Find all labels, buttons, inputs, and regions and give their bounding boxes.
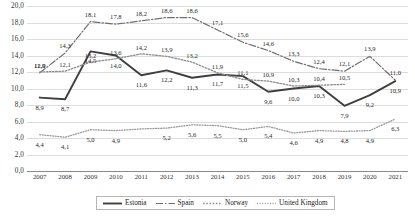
x-axis-tick-label: 2014 (211, 173, 225, 180)
data-label: 4,9 (315, 136, 323, 143)
x-axis-tick-label: 2015 (236, 173, 250, 180)
x-axis-tick-label: 2013 (185, 173, 199, 180)
data-label: 5,2 (163, 134, 171, 141)
data-label: 14,0 (110, 61, 122, 68)
x-axis-tick-label: 2018 (312, 173, 326, 180)
y-axis-tick-label: 0,0 (15, 167, 24, 175)
data-label: 18,6 (161, 6, 173, 13)
x-axis-tick-label: 2007 (33, 173, 47, 180)
data-label: 10,5 (339, 74, 351, 81)
data-label: 14,2 (136, 43, 148, 50)
legend-swatch-finedot (257, 200, 276, 207)
data-label: 11,0 (390, 69, 401, 76)
data-label: 18,2 (136, 9, 148, 16)
legend-item-united-kingdom[interactable]: United Kingdom (257, 199, 328, 207)
data-label: 10,3 (288, 76, 300, 83)
data-label: 10,4 (313, 75, 325, 82)
data-label: 18,1 (85, 10, 97, 17)
data-label: 4,8 (340, 137, 348, 144)
data-label: 17,8 (110, 13, 122, 20)
x-axis-tick-label: 2021 (389, 173, 403, 180)
legend-item-estonia[interactable]: Estonia (103, 199, 147, 207)
legend-swatch-solid (103, 200, 122, 207)
data-label: 8,7 (61, 105, 69, 112)
data-label: 8,9 (36, 103, 44, 110)
data-label: 13,2 (85, 52, 97, 59)
data-label: 14,6 (263, 39, 275, 46)
data-label: 11,5 (237, 82, 248, 89)
data-label: 5,6 (188, 130, 196, 137)
data-label: 12,1 (339, 60, 351, 67)
x-axis-tick-label: 2011 (135, 173, 148, 180)
plot-area: 8,98,714,514,011,612,211,311,711,59,610,… (27, 6, 408, 171)
data-label: 4,9 (112, 136, 120, 143)
data-label: 10,3 (313, 92, 325, 99)
series-line-spain (40, 18, 396, 81)
data-label: 12,4 (313, 57, 325, 64)
x-axis-tick-label: 2017 (287, 173, 301, 180)
y-axis-tick-label: 12,0 (11, 68, 24, 76)
data-label: 6,3 (391, 125, 399, 132)
x-axis-tick-label: 2012 (160, 173, 174, 180)
data-label: 4,4 (36, 140, 44, 147)
data-label: 12,0 (34, 62, 46, 69)
legend-label: United Kingdom (279, 199, 328, 207)
data-label: 5,0 (86, 135, 94, 142)
data-label: 13,2 (186, 52, 198, 59)
y-axis-tick-label: 18,0 (11, 19, 24, 27)
y-axis-tick-label: 10,0 (11, 85, 24, 93)
data-label: 13,9 (364, 45, 376, 52)
x-axis: 2007200820092010201120122013201420152016… (27, 173, 408, 186)
chart-legend: EstoniaSpainNorwayUnited Kingdom (96, 196, 335, 210)
data-label: 13,3 (288, 50, 300, 57)
y-axis-tick-label: 16,0 (11, 35, 24, 43)
data-label: 11,9 (212, 62, 223, 69)
data-label: 9,6 (264, 97, 272, 104)
data-label: 14,3 (59, 42, 71, 49)
data-label: 4,6 (290, 139, 298, 146)
y-axis-tick-label: 20,0 (11, 2, 24, 10)
data-label: 5,4 (264, 132, 272, 139)
legend-item-spain[interactable]: Spain (156, 199, 194, 207)
y-axis-tick-label: 2,0 (15, 151, 24, 159)
data-label: 11,6 (136, 81, 147, 88)
data-label: 10,0 (288, 94, 300, 101)
data-label: 10,9 (390, 87, 402, 94)
x-axis-tick-label: 2008 (58, 173, 72, 180)
data-label: 10,9 (263, 71, 275, 78)
y-axis-tick-label: 6,0 (15, 118, 24, 126)
y-axis-tick-label: 14,0 (11, 52, 24, 60)
data-label: 5,0 (239, 135, 247, 142)
x-axis-tick-label: 2016 (262, 173, 276, 180)
data-label: 11,3 (186, 83, 197, 90)
data-label: 11,1 (237, 69, 248, 76)
x-axis-tick-label: 2020 (363, 173, 377, 180)
data-label: 12,2 (161, 76, 173, 83)
data-label: 17,1 (212, 18, 224, 25)
y-axis: 0,02,04,06,08,010,012,014,016,018,020,0 (0, 6, 24, 171)
legend-label: Spain (178, 199, 194, 207)
legend-label: Norway (225, 199, 248, 207)
data-label: 12,1 (59, 61, 71, 68)
x-axis-tick-label: 2009 (84, 173, 98, 180)
data-label: 18,6 (186, 6, 198, 13)
x-axis-tick-label: 2019 (338, 173, 352, 180)
data-label: 15,6 (237, 31, 249, 38)
data-label: 11,7 (212, 80, 223, 87)
legend-swatch-dotted (203, 200, 222, 207)
legend-label: Estonia (125, 199, 147, 207)
data-label: 4,1 (61, 143, 69, 150)
legend-item-norway[interactable]: Norway (203, 199, 248, 207)
x-axis-tick-label: 2010 (109, 173, 123, 180)
data-label: 13,9 (161, 46, 173, 53)
data-label: 13,6 (110, 48, 122, 55)
data-label: 7,9 (340, 111, 348, 118)
data-label: 9,2 (366, 101, 374, 108)
axis-baseline (27, 171, 408, 172)
y-axis-tick-label: 4,0 (15, 134, 24, 142)
data-label: 5,5 (213, 131, 221, 138)
y-axis-tick-label: 8,0 (15, 101, 24, 109)
legend-swatch-dashdot (156, 200, 175, 207)
data-label: 4,9 (366, 136, 374, 143)
line-chart: 0,02,04,06,08,010,012,014,016,018,020,0 … (0, 0, 415, 221)
